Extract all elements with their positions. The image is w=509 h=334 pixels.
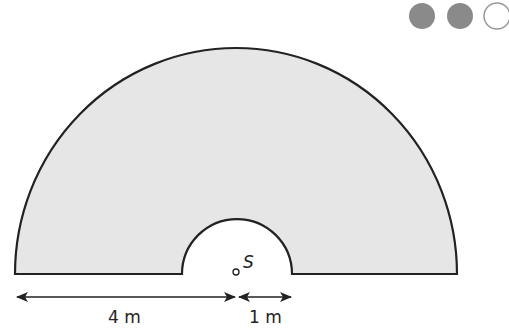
- half-ring-shape: [15, 48, 457, 274]
- outer-width-label: 4 m: [108, 307, 141, 327]
- point-s-label: S: [243, 252, 254, 272]
- difficulty-dot-filled: [447, 3, 473, 29]
- difficulty-indicator: [409, 3, 509, 29]
- point-s-marker: [233, 269, 239, 275]
- diagram: S 4 m 1 m: [0, 0, 509, 334]
- difficulty-dot-filled: [409, 3, 435, 29]
- difficulty-dot-empty: [484, 3, 509, 29]
- inner-radius-label: 1 m: [249, 307, 282, 327]
